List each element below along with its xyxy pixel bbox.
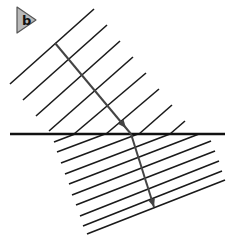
panel-badge: b [17, 7, 36, 33]
incident-wavefronts [10, 9, 185, 134]
wavefront-line [74, 73, 146, 134]
refraction-diagram: b [0, 0, 233, 247]
wavefront-line [106, 89, 159, 134]
panel-label: b [22, 13, 31, 28]
wavefront-line [87, 180, 225, 234]
wavefront-line [83, 171, 222, 226]
wavefront-line [65, 134, 170, 174]
wavefront-line [80, 161, 219, 216]
refracted-wavefronts [54, 134, 225, 234]
wavefront-line [139, 105, 172, 134]
wavefront-line [170, 121, 185, 134]
wavefront-line [61, 134, 138, 163]
